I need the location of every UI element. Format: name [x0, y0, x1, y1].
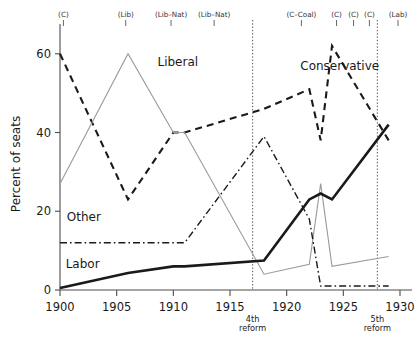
x-tick-label-1930: 1930: [385, 300, 414, 314]
series-label-liberal: Liberal: [157, 55, 198, 69]
reform-sublabel-4th: reform: [239, 323, 266, 333]
x-tick-label-1900: 1900: [45, 300, 74, 314]
y-tick-label-20: 20: [36, 204, 51, 218]
series-line-liberal: [60, 54, 389, 275]
era-label-3: (Lib–Nat): [198, 10, 231, 19]
series-label-other: Other: [67, 210, 101, 224]
y-tick-label-60: 60: [36, 47, 51, 61]
series-label-conservative: Conservative: [300, 59, 379, 73]
era-label-2: (Lib–Nat): [155, 10, 188, 19]
era-label-4: (C–Coal): [286, 10, 316, 19]
x-tick-label-1925: 1925: [329, 300, 358, 314]
x-tick-label-1920: 1920: [272, 300, 301, 314]
era-label-7: (C): [364, 10, 375, 19]
y-axis-title: Percent of seats: [9, 116, 23, 212]
data-series-lines: [60, 46, 389, 288]
era-label-6: (C): [348, 10, 359, 19]
x-tick-label-1905: 1905: [102, 300, 131, 314]
chart-root: 4threform5threform(C)(Lib)(Lib–Nat)(Lib–…: [0, 0, 417, 345]
x-tick-label-1915: 1915: [215, 300, 244, 314]
reform-sublabel-5th: reform: [364, 323, 391, 333]
x-tick-label-1910: 1910: [159, 300, 188, 314]
era-label-8: (Lab): [389, 10, 408, 19]
era-marker-ticks: [63, 20, 398, 26]
era-label-0: (C): [58, 10, 69, 19]
y-tick-label-40: 40: [36, 126, 51, 140]
series-label-labor: Labor: [66, 257, 100, 271]
era-label-5: (C): [331, 10, 342, 19]
era-label-1: (Lib): [118, 10, 134, 19]
y-tick-label-0: 0: [44, 283, 51, 297]
percent-of-seats-line-chart: 4threform5threform(C)(Lib)(Lib–Nat)(Lib–…: [0, 0, 417, 345]
series-line-labor: [60, 125, 389, 288]
